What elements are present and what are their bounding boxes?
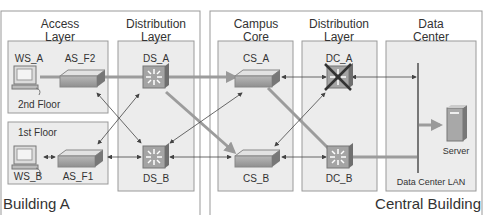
server-label: Server (443, 146, 470, 156)
dc-a-label: DC_A (326, 53, 353, 64)
dc-lan-label: Data Center LAN (397, 177, 466, 187)
core-title-2: Core (243, 30, 269, 44)
dc-title-2: Center (413, 30, 449, 44)
multilayer-switch-icon[interactable] (327, 143, 353, 168)
as-f2-label: AS_F2 (65, 53, 96, 64)
core-switch-icon[interactable] (235, 70, 280, 87)
dc-b-label: DC_B (326, 173, 353, 184)
building-a-label: Building A (3, 195, 70, 212)
as-f1-label: AS_F1 (63, 171, 94, 182)
access-layer-title-1: Access (41, 17, 80, 31)
dc-title-1: Data (418, 17, 444, 31)
network-diagram: Access Layer Distribution Layer Campus C… (0, 0, 483, 215)
ds-b-label: DS_B (143, 173, 169, 184)
floor-2-label: 2nd Floor (18, 99, 61, 110)
dist-a-title-2: Layer (141, 30, 171, 44)
multilayer-switch-icon[interactable] (143, 63, 169, 88)
dist-c-title-2: Layer (324, 30, 354, 44)
dist-c-title-1: Distribution (309, 17, 369, 31)
server-icon[interactable] (447, 105, 467, 141)
ds-a-label: DS_A (143, 53, 169, 64)
access-layer-title-2: Layer (45, 30, 75, 44)
core-title-1: Campus (234, 17, 279, 31)
ws-a-label: WS_A (15, 53, 44, 64)
central-building-label: Central Building (375, 195, 481, 212)
cs-a-label: CS_A (243, 53, 269, 64)
cs-b-label: CS_B (243, 173, 269, 184)
floor-1-label: 1st Floor (18, 127, 58, 138)
ws-b-label: WS_B (14, 171, 43, 182)
core-switch-icon[interactable] (235, 150, 280, 167)
access-switch-icon[interactable] (58, 150, 103, 167)
access-switch-icon[interactable] (60, 70, 105, 87)
dist-a-title-1: Distribution (126, 17, 186, 31)
multilayer-switch-icon[interactable] (143, 143, 169, 168)
multilayer-switch-icon[interactable] (325, 63, 353, 90)
